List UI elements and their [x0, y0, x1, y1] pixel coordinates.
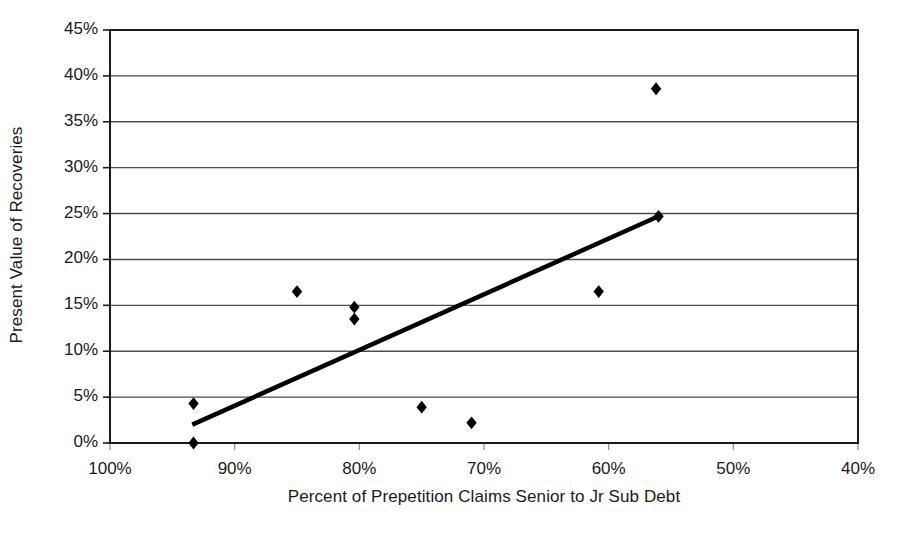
- plot-canvas: [0, 0, 902, 539]
- data-point-marker: [593, 285, 603, 298]
- y-axis-tickmarks: [103, 30, 110, 443]
- data-point-marker: [349, 313, 359, 326]
- x-axis-title-wrapper: Percent of Prepetition Claims Senior to …: [110, 487, 858, 507]
- plot-frame: [110, 30, 858, 443]
- data-point-marker: [416, 401, 426, 414]
- data-point-marker: [466, 416, 476, 429]
- x-axis-tickmarks: [110, 443, 858, 450]
- data-point-marker: [188, 397, 198, 410]
- data-point-marker: [653, 210, 663, 223]
- gridlines: [110, 76, 858, 397]
- data-point-marker: [349, 301, 359, 314]
- scatter-chart: Present Value of Recoveries 0%5%10%15%20…: [0, 0, 902, 539]
- data-point-marker: [292, 285, 302, 298]
- trend-line: [192, 216, 658, 424]
- x-axis-title: Percent of Prepetition Claims Senior to …: [288, 487, 681, 506]
- data-point-marker: [188, 437, 198, 450]
- trend-line-segment: [192, 216, 658, 424]
- data-point-marker: [651, 82, 661, 95]
